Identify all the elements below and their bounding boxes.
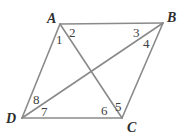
angle-label-8: 8 (33, 93, 40, 106)
geometry-figure: A B C D 1 2 3 4 5 6 7 8 (0, 0, 183, 137)
angle-label-6: 6 (101, 104, 108, 117)
figure-canvas (0, 0, 183, 137)
angle-label-2: 2 (69, 26, 76, 39)
vertex-label-c: C (127, 121, 136, 135)
vertex-label-d: D (6, 112, 16, 126)
angle-label-1: 1 (56, 33, 63, 46)
angle-label-7: 7 (41, 105, 48, 118)
vertex-label-b: B (167, 11, 176, 25)
side-ab (60, 23, 163, 24)
angle-label-5: 5 (115, 100, 122, 113)
angle-label-4: 4 (143, 37, 150, 50)
angle-label-3: 3 (133, 26, 140, 39)
vertex-label-a: A (47, 12, 56, 26)
